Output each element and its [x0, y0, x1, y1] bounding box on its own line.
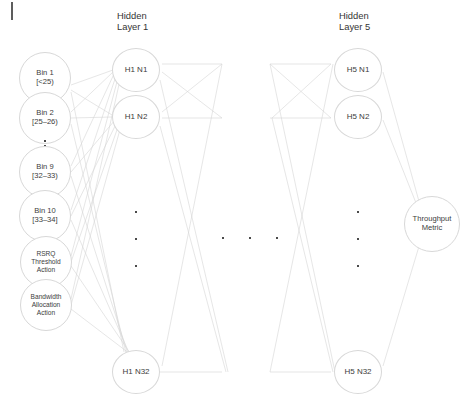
layer-title-hidden-1: Hidden Layer 1: [117, 10, 148, 33]
hidden5-node-h5-n1[interactable]: H5 N1: [334, 48, 382, 92]
input-node-bin-1-label: Bin 1 [<25): [35, 69, 55, 87]
hidden5-node-h5-n2-label: H5 N2: [346, 112, 371, 121]
hidden1-node-h1-n1-label: H1 N1: [124, 65, 149, 74]
hidden1-node-h1-n32[interactable]: H1 N32: [112, 350, 160, 394]
hidden5-node-h5-n32-label: H5 N32: [343, 367, 372, 376]
hidden1-node-h1-n1[interactable]: H1 N1: [112, 48, 160, 92]
ellipsis-dot: [357, 238, 359, 240]
ellipsis-dot: [276, 237, 278, 239]
ellipsis-dot: [135, 211, 137, 213]
ellipsis-dot: [44, 140, 46, 142]
input-node-bin-9-label: Bin 9 [32–33): [31, 163, 59, 181]
output-node-throughput-metric-label: Throughput Metric: [412, 215, 453, 233]
input-node-bin-10[interactable]: Bin 10 [33–34]: [19, 190, 71, 242]
output-node-throughput-metric[interactable]: Throughput Metric: [404, 196, 460, 252]
input-node-bin-10-label: Bin 10 [33–34]: [31, 207, 58, 225]
ellipsis-dot: [249, 237, 251, 239]
hidden1-node-h1-n32-label: H1 N32: [121, 367, 150, 376]
hidden5-node-h5-n32[interactable]: H5 N32: [334, 350, 382, 394]
input-node-rsrq-threshold-action-label: RSRQ Threshold Action: [30, 250, 61, 273]
input-node-bandwidth-allocation-action[interactable]: Bandwidth Allocation Action: [20, 279, 72, 331]
ellipsis-dot: [357, 211, 359, 213]
hidden1-node-h1-n2[interactable]: H1 N2: [112, 95, 160, 139]
input-node-bandwidth-allocation-action-label: Bandwidth Allocation Action: [30, 293, 63, 316]
hidden5-node-h5-n1-label: H5 N1: [346, 65, 371, 74]
ellipsis-dot: [135, 265, 137, 267]
layer-title-hidden-5: Hidden Layer 5: [339, 10, 370, 33]
neural-network-diagram: Hidden Layer 1 Hidden Layer 5 Bin 1 [<25…: [0, 0, 475, 405]
hidden5-node-h5-n2[interactable]: H5 N2: [334, 95, 382, 139]
ellipsis-dot: [357, 265, 359, 267]
hidden1-to-hidden5-edges: [160, 64, 335, 372]
ellipsis-dot: [222, 237, 224, 239]
input-node-bin-2[interactable]: Bin 2 [25–26): [19, 92, 71, 144]
edge-layer: [0, 0, 475, 405]
input-node-bin-2-label: Bin 2 [25–26): [31, 109, 59, 127]
hidden1-node-h1-n2-label: H1 N2: [124, 112, 149, 121]
ellipsis-dot: [135, 238, 137, 240]
